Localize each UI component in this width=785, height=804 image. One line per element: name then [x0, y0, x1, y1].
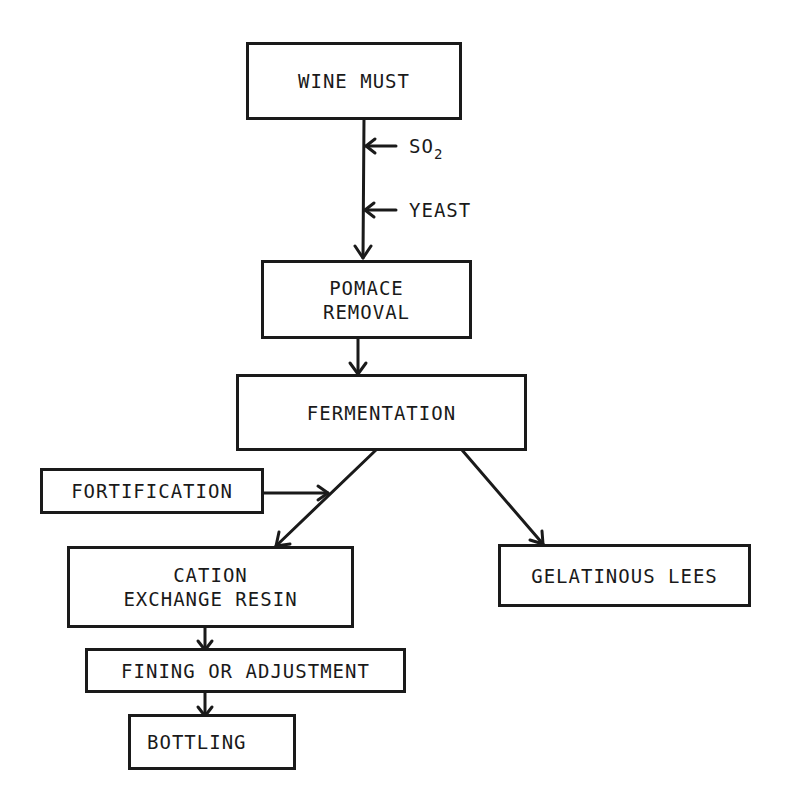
node-fermentation: FERMENTATION [236, 374, 527, 451]
arrow-fermentation-to-lees [462, 450, 543, 544]
arrow-wine-must-to-pomace [363, 118, 364, 258]
input-yeast: YEAST [409, 198, 471, 222]
node-fining-or-adjustment: FINING OR ADJUSTMENT [85, 648, 406, 693]
node-cation-exchange-resin: CATION EXCHANGE RESIN [67, 546, 354, 628]
node-pomace-removal: POMACE REMOVAL [261, 260, 472, 339]
node-label: WINE MUST [298, 69, 410, 93]
node-bottling: BOTTLING [128, 714, 296, 770]
node-fortification: FORTIFICATION [40, 468, 264, 514]
node-gelatinous-lees: GELATINOUS LEES [498, 544, 751, 607]
arrow-fermentation-to-cation [276, 450, 376, 546]
node-wine-must: WINE MUST [246, 42, 462, 120]
input-so2: SO2 [409, 134, 443, 166]
